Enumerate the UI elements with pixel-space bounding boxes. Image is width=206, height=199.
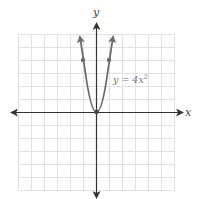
point-1-4 — [107, 58, 111, 62]
equation-label: y = 4x2 — [112, 73, 148, 85]
point-neg1-4 — [81, 58, 85, 62]
coordinate-plane: x y y = 4x2 — [0, 0, 206, 199]
x-axis-label: x — [185, 106, 192, 119]
point-origin — [94, 110, 98, 114]
y-axis-label: y — [92, 6, 100, 19]
